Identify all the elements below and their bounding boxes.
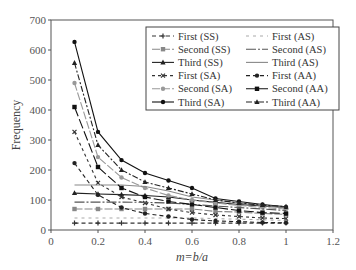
dot-marker-icon xyxy=(260,220,264,224)
legend-label: Third (AS) xyxy=(272,57,319,69)
square-marker-icon xyxy=(119,186,123,190)
dot-marker-icon xyxy=(190,198,194,202)
dot-marker-icon xyxy=(72,40,76,44)
dot-marker-icon xyxy=(190,186,194,190)
y-tick-label: 700 xyxy=(30,14,47,26)
square-marker-icon xyxy=(143,195,147,199)
square-marker-icon xyxy=(96,165,100,169)
x-marker-icon xyxy=(96,181,100,185)
square-marker-icon xyxy=(96,207,100,211)
legend-label: First (AA) xyxy=(272,70,317,82)
legend-label: Third (SS) xyxy=(178,57,223,69)
square-marker-icon xyxy=(72,207,76,211)
y-tick-label: 200 xyxy=(30,164,47,176)
square-marker-icon xyxy=(190,202,194,206)
x-axis-label: m=b/a xyxy=(176,250,208,264)
series-second-aa xyxy=(72,105,288,216)
dot-marker-icon xyxy=(96,155,100,159)
x-tick-label: 0.2 xyxy=(91,235,105,247)
square-marker-icon xyxy=(213,205,217,209)
x-tick-label: 0.8 xyxy=(232,235,246,247)
dot-marker-icon xyxy=(166,214,170,218)
legend-label: Second (SS) xyxy=(178,44,231,56)
x-tick-label: 0 xyxy=(48,235,54,247)
dot-marker-icon xyxy=(119,158,123,162)
legend-label: First (AS) xyxy=(272,31,315,43)
dot-marker-icon xyxy=(96,130,100,134)
y-tick-label: 300 xyxy=(30,134,47,146)
dot-marker-icon xyxy=(143,211,147,215)
x-axis: 00.20.40.60.811.2 xyxy=(48,230,340,247)
x-marker-icon xyxy=(73,130,77,134)
dot-marker-icon xyxy=(161,87,165,91)
series-first-ss xyxy=(72,221,289,226)
dot-marker-icon xyxy=(119,205,123,209)
series-first-aa xyxy=(72,161,288,225)
square-marker-icon xyxy=(166,199,170,203)
dot-marker-icon xyxy=(213,219,217,223)
dot-marker-icon xyxy=(72,161,76,165)
series-line xyxy=(75,163,287,223)
dot-marker-icon xyxy=(96,193,100,197)
dot-marker-icon xyxy=(237,219,241,223)
x-tick-label: 0.6 xyxy=(185,235,199,247)
plus-marker-icon xyxy=(96,221,101,226)
dot-marker-icon xyxy=(255,73,259,77)
frequency-chart: 0100200300400500600700 00.20.40.60.811.2… xyxy=(0,0,356,270)
legend-label: Second (AA) xyxy=(272,83,328,95)
legend-label: First (SS) xyxy=(178,31,219,43)
dot-marker-icon xyxy=(72,81,76,85)
triangle-marker-icon xyxy=(95,142,100,147)
x-tick-label: 1.2 xyxy=(326,235,340,247)
plus-marker-icon xyxy=(166,221,171,226)
square-marker-icon xyxy=(143,207,147,211)
legend-label: Second (SA) xyxy=(178,83,232,95)
y-axis: 0100200300400500600700 xyxy=(30,14,52,236)
square-marker-icon xyxy=(237,208,241,212)
plus-marker-icon xyxy=(72,221,77,226)
dot-marker-icon xyxy=(284,221,288,225)
dot-marker-icon xyxy=(143,171,147,175)
dot-marker-icon xyxy=(166,193,170,197)
square-marker-icon xyxy=(72,105,76,109)
dot-marker-icon xyxy=(190,217,194,221)
plus-marker-icon xyxy=(143,221,148,226)
x-tick-label: 1 xyxy=(283,235,289,247)
y-tick-label: 500 xyxy=(30,74,47,86)
legend-label: Second (AS) xyxy=(272,44,326,56)
legend-label: Third (AA) xyxy=(272,97,321,109)
square-marker-icon xyxy=(260,210,264,214)
square-marker-icon xyxy=(255,87,259,91)
triangle-marker-icon xyxy=(72,60,77,65)
square-marker-icon xyxy=(284,211,288,215)
square-marker-icon xyxy=(161,47,165,51)
dot-marker-icon xyxy=(166,178,170,182)
dot-marker-icon xyxy=(161,100,165,104)
y-tick-label: 100 xyxy=(30,194,47,206)
legend-label: Third (SA) xyxy=(178,97,225,109)
series-line xyxy=(75,193,287,207)
y-tick-label: 400 xyxy=(30,104,47,116)
x-tick-label: 0.4 xyxy=(138,235,152,247)
plus-marker-icon xyxy=(119,221,124,226)
y-tick-label: 0 xyxy=(41,224,47,236)
y-axis-label: Frequency xyxy=(9,100,23,151)
legend-label: First (SA) xyxy=(178,70,221,82)
y-tick-label: 600 xyxy=(30,44,47,56)
dot-marker-icon xyxy=(119,175,123,179)
legend: First (SS)Second (SS)Third (SS)First (SA… xyxy=(146,27,339,110)
series-line xyxy=(75,209,287,214)
